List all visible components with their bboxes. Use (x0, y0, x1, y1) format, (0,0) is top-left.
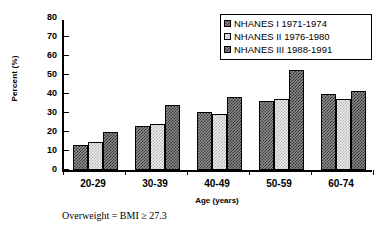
y-axis-tick-label: 70 (47, 31, 57, 41)
x-axis-category-label: 60-74 (305, 178, 377, 189)
y-axis-tick-label: 30 (47, 107, 57, 117)
bar (197, 112, 212, 170)
x-axis-tick-mark (125, 170, 126, 175)
bar (165, 105, 180, 170)
y-axis-tick-label: 50 (47, 69, 57, 79)
y-axis-tick-mark (64, 36, 69, 37)
bar (274, 99, 289, 170)
x-axis-tick-mark (187, 170, 188, 175)
chart-footnote: Overweight = BMI ≥ 27.3 (62, 210, 167, 221)
bar (336, 99, 351, 170)
bar (88, 142, 103, 171)
bar (212, 114, 227, 170)
legend-item: NHANES I 1971-1974 (224, 17, 368, 30)
legend-item-label: NHANES III 1988-1991 (234, 43, 332, 56)
x-axis-tick-mark (311, 170, 312, 175)
y-axis-tick-mark (64, 112, 69, 113)
y-axis-tick-label: 40 (47, 88, 57, 98)
y-axis-tick-mark (64, 131, 69, 132)
bar (135, 126, 150, 170)
legend-swatch-icon (224, 46, 231, 53)
legend-item: NHANES II 1976-1980 (224, 30, 368, 43)
x-axis-tick-mark (373, 170, 374, 175)
y-axis-title: Percent (%) (10, 44, 19, 114)
y-axis-tick-label: 80 (47, 12, 57, 22)
x-axis-tick-mark (63, 170, 64, 175)
legend-swatch-icon (224, 33, 231, 40)
bar (227, 97, 242, 170)
y-axis-tick-mark (64, 150, 69, 151)
y-axis-tick-label: 10 (47, 145, 57, 155)
x-axis-title: Age (years) (62, 196, 372, 205)
bar (103, 132, 118, 170)
bar-chart: Percent (%) 01020304050607080 20-2930-39… (0, 0, 377, 231)
bar (259, 101, 274, 170)
y-axis-tick-mark (64, 169, 69, 170)
bar (289, 70, 304, 170)
legend-item: NHANES III 1988-1991 (224, 43, 368, 56)
bar (73, 145, 88, 170)
legend-swatch-icon (224, 20, 231, 27)
legend-item-label: NHANES I 1971-1974 (234, 17, 327, 30)
chart-legend: NHANES I 1971-1974 NHANES II 1976-1980 N… (220, 14, 372, 60)
y-axis-tick-mark (64, 74, 69, 75)
y-axis-tick-label: 0 (52, 164, 57, 174)
bar (321, 94, 336, 170)
bar (351, 91, 366, 170)
y-axis-tick-label: 20 (47, 126, 57, 136)
y-axis-tick-mark (64, 55, 69, 56)
legend-item-label: NHANES II 1976-1980 (234, 30, 330, 43)
y-axis-tick-mark (64, 93, 69, 94)
y-axis-tick-label: 60 (47, 50, 57, 60)
x-axis-tick-mark (249, 170, 250, 175)
bar (150, 124, 165, 170)
